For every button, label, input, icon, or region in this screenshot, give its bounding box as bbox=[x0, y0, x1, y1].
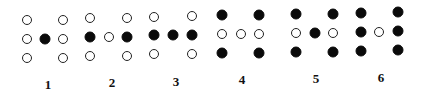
empty-dot bbox=[104, 32, 114, 42]
filled-dot bbox=[168, 30, 179, 41]
filled-dot bbox=[310, 28, 321, 39]
filled-dot bbox=[393, 26, 404, 37]
filled-dot bbox=[254, 10, 265, 21]
filled-dot bbox=[291, 9, 302, 20]
empty-dot bbox=[149, 49, 159, 59]
figure-label: 3 bbox=[173, 74, 180, 90]
figure-label: 6 bbox=[378, 70, 385, 86]
empty-dot bbox=[22, 53, 32, 63]
filled-dot bbox=[328, 47, 339, 58]
figure-label: 2 bbox=[109, 75, 116, 91]
filled-dot bbox=[187, 30, 198, 41]
filled-dot bbox=[356, 8, 367, 19]
empty-dot bbox=[85, 51, 95, 61]
figure-label: 5 bbox=[313, 71, 320, 87]
figure-label: 4 bbox=[239, 72, 246, 88]
empty-dot bbox=[187, 49, 197, 59]
figure-label: 1 bbox=[45, 77, 52, 93]
empty-dot bbox=[374, 27, 384, 37]
filled-dot bbox=[356, 46, 367, 57]
empty-dot bbox=[291, 28, 301, 38]
filled-dot bbox=[254, 48, 265, 59]
empty-dot bbox=[122, 51, 132, 61]
dot-pattern-diagram: 123456 bbox=[0, 0, 425, 97]
filled-dot bbox=[149, 30, 160, 41]
filled-dot bbox=[85, 32, 96, 43]
filled-dot bbox=[393, 45, 404, 56]
filled-dot bbox=[356, 27, 367, 38]
empty-dot bbox=[58, 15, 68, 25]
empty-dot bbox=[149, 12, 159, 22]
empty-dot bbox=[187, 11, 197, 21]
empty-dot bbox=[85, 13, 95, 23]
filled-dot bbox=[40, 34, 51, 45]
filled-dot bbox=[328, 9, 339, 20]
filled-dot bbox=[291, 47, 302, 58]
filled-dot bbox=[217, 10, 228, 21]
empty-dot bbox=[122, 13, 132, 23]
filled-dot bbox=[393, 7, 404, 18]
empty-dot bbox=[22, 34, 32, 44]
empty-dot bbox=[58, 34, 68, 44]
filled-dot bbox=[122, 32, 133, 43]
empty-dot bbox=[58, 53, 68, 63]
empty-dot bbox=[22, 15, 32, 25]
empty-dot bbox=[254, 29, 264, 39]
empty-dot bbox=[328, 28, 338, 38]
filled-dot bbox=[217, 48, 228, 59]
empty-dot bbox=[217, 29, 227, 39]
empty-dot bbox=[236, 29, 246, 39]
